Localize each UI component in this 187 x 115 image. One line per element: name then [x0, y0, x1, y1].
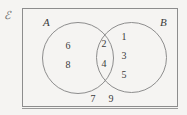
element-intersection: 2: [99, 39, 109, 49]
element-b-only: 5: [119, 70, 129, 80]
element-outside-sets: 9: [106, 94, 116, 104]
element-b-only: 3: [119, 51, 129, 61]
element-b-only: 1: [119, 32, 129, 42]
element-intersection: 4: [99, 59, 109, 69]
element-a-only: 8: [63, 60, 73, 70]
element-a-only: 6: [63, 41, 73, 51]
venn-diagram: ℰ A B 6 8 2 4 1 3 5 7 9: [0, 0, 187, 115]
element-outside-sets: 7: [88, 94, 98, 104]
set-circle-b: [96, 22, 167, 93]
set-label-a: A: [43, 17, 50, 28]
set-label-b: B: [160, 17, 167, 28]
universal-set-symbol: ℰ: [4, 10, 11, 21]
